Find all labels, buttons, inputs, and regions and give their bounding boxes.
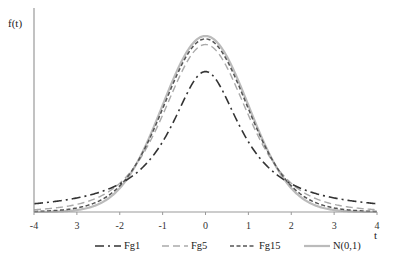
x-tick-label: 1 — [246, 220, 251, 231]
y-axis-label: f(t) — [8, 17, 22, 30]
legend: Fg1Fg5Fg15N(0,1) — [95, 240, 361, 252]
x-tick-label: 2 — [289, 220, 294, 231]
x-tick-label: 3 — [74, 220, 79, 231]
legend-label: Fg15 — [259, 240, 281, 251]
x-tick-label: -4 — [30, 220, 38, 231]
curves — [34, 36, 377, 212]
legend-label: Fg1 — [124, 240, 140, 251]
x-tick-label: -1 — [158, 220, 166, 231]
x-ticks: -43-2-101234 — [30, 212, 380, 231]
x-tick-label: 0 — [203, 220, 208, 231]
legend-label: N(0,1) — [333, 240, 361, 252]
x-tick-label: 3 — [332, 220, 337, 231]
series-line-fg1 — [34, 72, 377, 204]
x-axis-label: t — [374, 229, 377, 241]
series-line-n01 — [34, 36, 377, 212]
chart: -43-2-101234 f(t) t Fg1Fg5Fg15N(0,1) — [0, 0, 397, 270]
legend-label: Fg5 — [191, 240, 207, 251]
x-tick-label: -2 — [116, 220, 124, 231]
series-line-fg5 — [34, 45, 377, 210]
series-line-fg15 — [34, 39, 377, 212]
